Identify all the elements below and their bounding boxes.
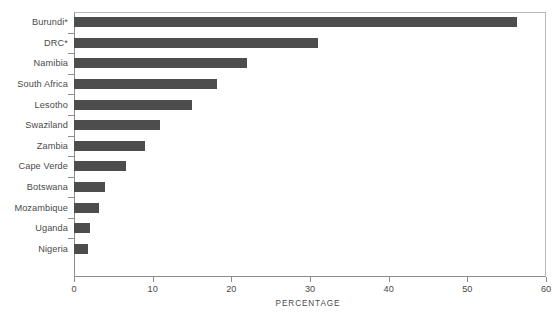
x-axis-tick [546,277,547,282]
x-axis-title-label: PERCENTAGE [276,299,341,308]
x-axis-tick [389,277,390,282]
x-axis-title: PERCENTAGE [0,299,558,308]
y-axis-tick [68,33,74,34]
category-label: Namibia [0,58,68,68]
bar [74,161,126,171]
y-axis-tick [68,218,74,219]
category-label: Uganda [0,223,68,233]
bar-row [74,53,546,74]
bar [74,58,247,68]
y-axis-tick [68,74,74,75]
x-axis-tick-label: 10 [148,284,158,294]
y-axis-tick [68,115,74,116]
bar-chart: Burundi*DRC*NamibiaSouth AfricaLesothoSw… [0,0,558,323]
y-axis-tick [68,238,74,239]
x-axis-tick-label: 20 [226,284,236,294]
bar-row [74,74,546,95]
category-label: Nigeria [0,244,68,254]
bar [74,182,105,192]
category-label: South Africa [0,79,68,89]
bars-layer [74,12,546,277]
x-axis-tick [153,277,154,282]
bar [74,100,192,110]
bar-row [74,33,546,54]
y-axis-tick [68,136,74,137]
bar [74,223,90,233]
category-axis-labels: Burundi*DRC*NamibiaSouth AfricaLesothoSw… [0,12,68,277]
category-label: Cape Verde [0,161,68,171]
x-axis-tick [467,277,468,282]
x-axis-tick [74,277,75,282]
y-axis-tick [68,53,74,54]
x-axis-tick-label: 30 [305,284,315,294]
bar-row [74,197,546,218]
x-axis-tick-label: 50 [462,284,472,294]
x-axis-tick-label: 0 [71,284,76,294]
category-label: Swaziland [0,120,68,130]
bar-row [74,12,546,33]
bar-row [74,136,546,157]
category-label: Burundi* [0,17,68,27]
bar-row [74,94,546,115]
y-axis-tick [68,177,74,178]
category-label: Lesotho [0,100,68,110]
bar-row [74,238,546,259]
bar [74,17,517,27]
category-label: Botswana [0,182,68,192]
x-axis-tick-label: 40 [384,284,394,294]
x-axis-tick [310,277,311,282]
bar [74,38,318,48]
bar [74,120,160,130]
x-axis-tick-label: 60 [541,284,551,294]
x-axis-tick [231,277,232,282]
category-label: Mozambique [0,203,68,213]
bar-row [74,177,546,198]
y-axis-tick [68,197,74,198]
bar [74,79,217,89]
bar-row [74,115,546,136]
bar [74,244,88,254]
category-label: DRC* [0,38,68,48]
y-axis-tick [68,156,74,157]
bar [74,141,145,151]
bar-row [74,218,546,239]
bar [74,203,99,213]
bar-row [74,156,546,177]
y-axis-tick [68,94,74,95]
category-label: Zambia [0,141,68,151]
